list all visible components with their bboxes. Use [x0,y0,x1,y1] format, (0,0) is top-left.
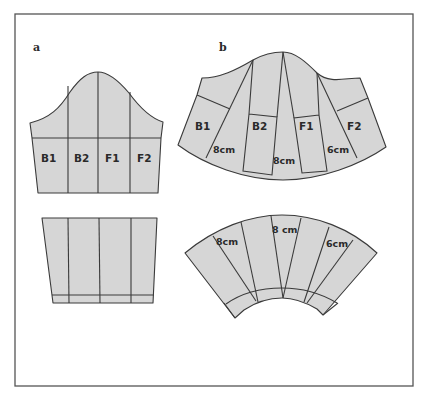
panel-a-label: a [33,41,40,54]
panel-b-lower-spread-left: 8cm [216,236,238,247]
panel-a-label-f1: F1 [105,152,119,164]
panel-a-label-b2: B2 [74,152,89,164]
panel-b-label-f1: F1 [299,120,313,132]
panel-a-lower-sleeve [42,218,157,303]
panel-b-spread-left: 8cm [213,144,235,155]
panel-b-label-b1: B1 [195,120,210,132]
panel-b-lower-spread-right: 6cm [326,238,348,249]
panel-b-label: b [219,41,227,54]
sleeve-pattern-diagram: a B1 B2 F1 F2 b [0,0,434,408]
figure-frame [15,14,413,386]
panel-a-label-f2: F2 [137,152,151,164]
panel-b-label-b2: B2 [252,120,267,132]
panel-b-spread-center: 8cm [273,155,295,166]
panel-b-label-f2: F2 [347,120,361,132]
panel-b-lower-spread-center: 8 cm [272,224,298,235]
panel-b-spread-right: 6cm [327,144,349,155]
panel-a-label-b1: B1 [41,152,56,164]
